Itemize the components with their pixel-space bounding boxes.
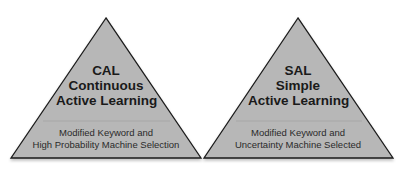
cal-subtitle-line-2: High Probability Machine Selection [26,139,186,151]
sal-title-line-1: SAL [248,63,348,78]
sal-title-line-3: Active Learning [248,93,348,108]
sal-subtitle-line-2: Uncertainty Machine Selected [218,139,378,151]
cal-title-line-1: CAL [56,63,156,78]
cal-subtitle-line-1: Modified Keyword and [26,127,186,139]
sal-title: SAL Simple Active Learning [248,63,348,108]
cal-title-line-3: Active Learning [56,93,156,108]
sal-title-line-2: Simple [248,78,348,93]
sal-subtitle: Modified Keyword and Uncertainty Machine… [218,127,378,151]
cal-subtitle: Modified Keyword and High Probability Ma… [26,127,186,151]
cal-title-line-2: Continuous [56,78,156,93]
cal-title: CAL Continuous Active Learning [56,63,156,108]
sal-subtitle-line-1: Modified Keyword and [218,127,378,139]
